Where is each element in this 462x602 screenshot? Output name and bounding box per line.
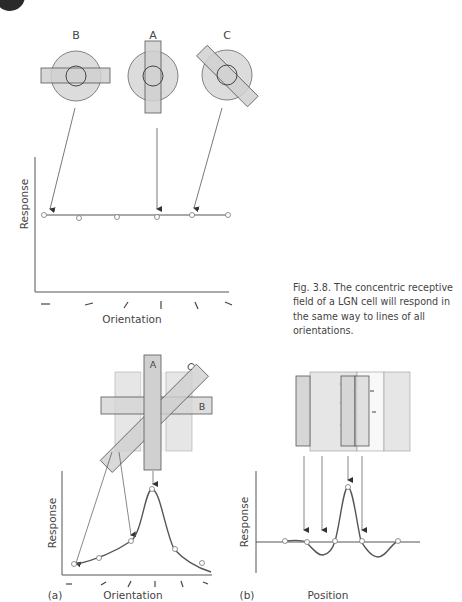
top-chart: Response Orientation [18,157,232,325]
panel-a-y-axis-label: Response [46,498,58,548]
panel-a-chart: Response Orientation (a) [46,471,212,601]
panel-b-label: (b) [240,589,255,601]
panel-a-stimuli: B C A [100,355,212,472]
stimulus-label-c: C [223,29,231,42]
panel-b-chart: Response Position (b) [238,471,420,601]
top-x-axis-label: Orientation [102,313,161,325]
stimulus-label-b: B [72,29,80,42]
panel-b-stimuli [296,372,410,451]
panel-a-label: (a) [48,589,63,601]
stimulus-label-a: A [149,29,157,42]
panel-b-arrows [304,456,362,530]
top-arrows [50,108,222,209]
page-marker [0,0,25,11]
top-stimuli: B A C [41,29,258,113]
panel-a-x-axis-label: Orientation [103,589,162,601]
panel-a-label-b: B [199,401,206,412]
figure-caption: Fig. 3.8. The concentric receptive field… [293,281,462,339]
panel-a-label-a: A [150,359,157,370]
panel-b-y-axis-label: Response [238,497,250,547]
figure-number: Fig. 3.8. [293,282,331,293]
top-y-axis-label: Response [18,179,30,229]
panel-b-x-axis-label: Position [308,589,349,601]
